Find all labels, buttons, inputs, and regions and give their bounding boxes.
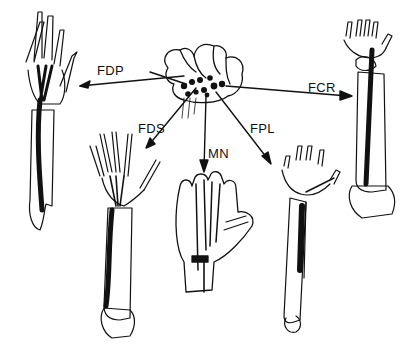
label-fds: FDS [138,122,165,135]
label-fpl: FPL [250,122,275,135]
anatomy-drawing [0,0,404,352]
mn-hand [176,172,253,292]
carpal-tunnel-cross-section [165,44,243,102]
fcr-forearm-hand [344,20,395,218]
label-fdp: FDP [97,64,124,77]
fds-forearm-hand [90,132,160,338]
label-mn: MN [208,147,229,160]
tendon-dots [181,75,225,97]
label-fcr: FCR [308,81,336,94]
anatomy-figure: FDP FDS MN FPL FCR [0,0,404,352]
fpl-forearm-hand [282,146,340,332]
fdp-forearm-hand [26,12,77,230]
